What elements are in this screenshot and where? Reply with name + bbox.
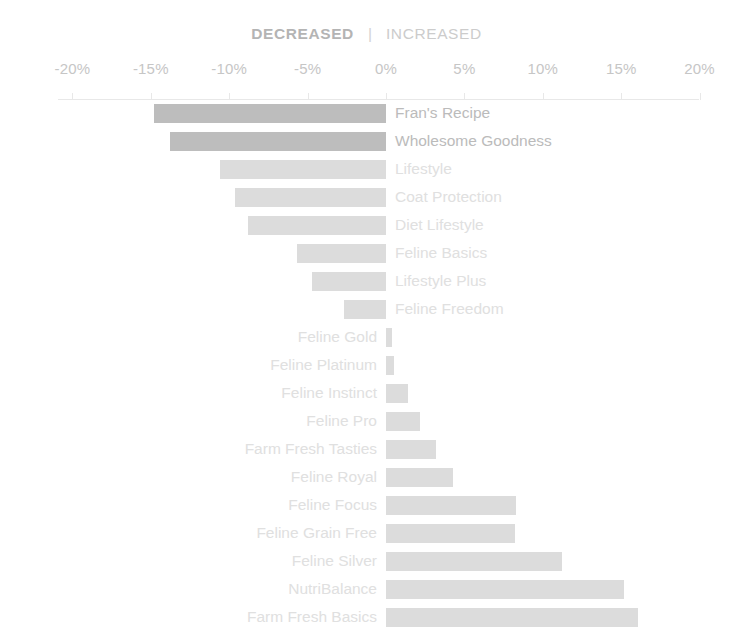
bar-label: Fran's Recipe [395,101,490,125]
bar[interactable] [170,132,386,151]
bar-row[interactable]: Feline Instinct [0,380,733,408]
bar-row[interactable]: Feline Royal [0,464,733,492]
bar-row[interactable]: Lifestyle [0,156,733,184]
bar-label: Farm Fresh Tasties [245,437,377,461]
header-separator: | [368,25,372,43]
bar-label: Feline Royal [291,465,377,489]
bar[interactable] [386,468,453,487]
bar[interactable] [344,300,386,319]
x-tick-label: -20% [54,60,90,77]
bar[interactable] [235,188,386,207]
bar[interactable] [248,216,386,235]
bar-label: Diet Lifestyle [395,213,484,237]
bar-row[interactable]: Lifestyle Plus [0,268,733,296]
bar-row[interactable]: Feline Pro [0,408,733,436]
bar[interactable] [220,160,386,179]
bar-chart-plot-area: Fran's RecipeWholesome GoodnessLifestyle… [0,100,733,637]
bar-label: NutriBalance [288,577,377,601]
bar[interactable] [386,440,436,459]
bar-label: Feline Focus [288,493,377,517]
bar-row[interactable]: Feline Focus [0,492,733,520]
bar-row[interactable]: NutriBalance [0,576,733,604]
bar-row[interactable]: Feline Silver [0,548,733,576]
bar-label: Feline Instinct [281,381,377,405]
bar-label: Feline Grain Free [256,521,377,545]
x-tick-label: -5% [294,60,321,77]
bar-label: Feline Pro [306,409,377,433]
bar-row[interactable]: Fran's Recipe [0,100,733,128]
bar-row[interactable]: Feline Gold [0,324,733,352]
bar[interactable] [154,104,386,123]
x-axis: -20%-15%-10%-5%0%5%10%15%20% [0,60,733,100]
x-tick-label: 15% [606,60,637,77]
bar[interactable] [386,356,394,375]
x-tick-mark [700,93,701,100]
bar[interactable] [386,608,638,627]
bar-label: Feline Freedom [395,297,504,321]
bar-label: Feline Basics [395,241,487,265]
increased-header-label: INCREASED [386,25,482,43]
bar-label: Feline Silver [292,549,377,573]
x-tick-label: -15% [133,60,169,77]
x-tick-label: -10% [211,60,247,77]
x-tick-label: 0% [375,60,397,77]
bar-row[interactable]: Feline Basics [0,240,733,268]
bar[interactable] [386,412,420,431]
bar-row[interactable]: Farm Fresh Tasties [0,436,733,464]
bar[interactable] [386,580,624,599]
bar-label: Farm Fresh Basics [247,605,377,629]
bar-label: Lifestyle [395,157,452,181]
bar-row[interactable]: Diet Lifestyle [0,212,733,240]
x-tick-label: 10% [527,60,558,77]
x-tick-label: 20% [684,60,715,77]
bar[interactable] [312,272,386,291]
x-tick-label: 5% [453,60,475,77]
bar-row[interactable]: Feline Freedom [0,296,733,324]
bar-label: Wholesome Goodness [395,129,552,153]
chart-header: DECREASED | INCREASED [0,22,733,46]
bar-label: Coat Protection [395,185,502,209]
bar[interactable] [386,328,392,347]
bar-label: Feline Platinum [270,353,377,377]
bar-label: Lifestyle Plus [395,269,486,293]
bar[interactable] [386,552,562,571]
bar[interactable] [386,524,515,543]
bar-row[interactable]: Feline Grain Free [0,520,733,548]
bar[interactable] [386,384,408,403]
bar-row[interactable]: Feline Platinum [0,352,733,380]
bar-row[interactable]: Wholesome Goodness [0,128,733,156]
bar[interactable] [386,496,516,515]
bar-row[interactable]: Coat Protection [0,184,733,212]
bar-row[interactable]: Farm Fresh Basics [0,604,733,632]
decreased-header-label: DECREASED [251,25,354,43]
bar[interactable] [297,244,386,263]
bar-label: Feline Gold [298,325,377,349]
